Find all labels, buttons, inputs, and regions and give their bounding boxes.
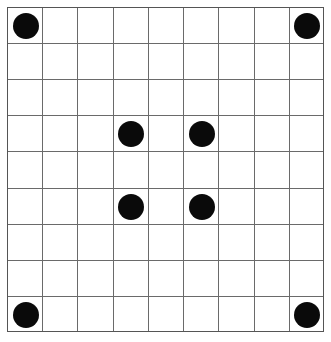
board-cell[interactable] xyxy=(43,8,78,44)
board-cell[interactable] xyxy=(290,116,325,152)
board-cell[interactable] xyxy=(184,8,219,44)
board-cell[interactable] xyxy=(219,80,254,116)
board-cell[interactable] xyxy=(8,80,43,116)
board-cell[interactable] xyxy=(43,116,78,152)
board-cell[interactable] xyxy=(8,116,43,152)
board-cell[interactable] xyxy=(255,189,290,225)
board-cell[interactable] xyxy=(184,225,219,261)
board-cell[interactable] xyxy=(78,152,113,188)
board-cell[interactable] xyxy=(78,44,113,80)
board-cell[interactable] xyxy=(114,8,149,44)
board-cell[interactable] xyxy=(78,116,113,152)
board-cell[interactable] xyxy=(184,152,219,188)
board-cell[interactable] xyxy=(114,44,149,80)
board-cell[interactable] xyxy=(219,116,254,152)
board-cell[interactable] xyxy=(219,297,254,333)
board-cell[interactable] xyxy=(114,297,149,333)
board-cell[interactable] xyxy=(149,44,184,80)
board-cell[interactable] xyxy=(184,80,219,116)
board-cell[interactable] xyxy=(43,189,78,225)
black-stone xyxy=(189,194,215,220)
board-cell[interactable] xyxy=(255,152,290,188)
black-stone xyxy=(13,13,39,39)
board-cell[interactable] xyxy=(184,297,219,333)
board-cell[interactable] xyxy=(149,297,184,333)
board-cell[interactable] xyxy=(219,152,254,188)
black-stone xyxy=(118,194,144,220)
board-cell[interactable] xyxy=(290,44,325,80)
black-stone xyxy=(189,121,215,147)
board-cell[interactable] xyxy=(149,116,184,152)
board-cell[interactable] xyxy=(114,225,149,261)
game-board xyxy=(7,7,324,332)
board-cell[interactable] xyxy=(78,8,113,44)
board-cell[interactable] xyxy=(8,152,43,188)
board-cell[interactable] xyxy=(78,297,113,333)
board-cell[interactable] xyxy=(149,225,184,261)
board-cell[interactable] xyxy=(8,225,43,261)
board-cell[interactable] xyxy=(114,152,149,188)
board-cell[interactable] xyxy=(43,297,78,333)
board-cell[interactable] xyxy=(8,261,43,297)
board-cell[interactable] xyxy=(219,225,254,261)
board-cell[interactable] xyxy=(78,225,113,261)
board-cell[interactable] xyxy=(149,80,184,116)
board-cell[interactable] xyxy=(149,261,184,297)
board-cell[interactable] xyxy=(43,44,78,80)
board-cell[interactable] xyxy=(255,261,290,297)
board-cell[interactable] xyxy=(290,261,325,297)
board-cell[interactable] xyxy=(114,80,149,116)
board-cell[interactable] xyxy=(43,261,78,297)
board-cell[interactable] xyxy=(43,152,78,188)
board-cell[interactable] xyxy=(255,80,290,116)
board-cell[interactable] xyxy=(255,44,290,80)
black-stone xyxy=(13,302,39,328)
board-cell[interactable] xyxy=(184,44,219,80)
board-cell[interactable] xyxy=(184,261,219,297)
board-cell[interactable] xyxy=(219,189,254,225)
board-cell[interactable] xyxy=(219,261,254,297)
board-cell[interactable] xyxy=(255,116,290,152)
board-cell[interactable] xyxy=(43,225,78,261)
board-cell[interactable] xyxy=(149,8,184,44)
board-cell[interactable] xyxy=(43,80,78,116)
board-cell[interactable] xyxy=(149,152,184,188)
board-cell[interactable] xyxy=(78,80,113,116)
board-cell[interactable] xyxy=(255,8,290,44)
board-cell[interactable] xyxy=(255,225,290,261)
board-cell[interactable] xyxy=(78,261,113,297)
board-cell[interactable] xyxy=(78,189,113,225)
board-cell[interactable] xyxy=(149,189,184,225)
board-cell[interactable] xyxy=(114,261,149,297)
board-cell[interactable] xyxy=(8,44,43,80)
board-cell[interactable] xyxy=(255,297,290,333)
board-cell[interactable] xyxy=(8,189,43,225)
board-cell[interactable] xyxy=(290,80,325,116)
board-cell[interactable] xyxy=(219,44,254,80)
board-cell[interactable] xyxy=(290,189,325,225)
board-cell[interactable] xyxy=(219,8,254,44)
board-cell[interactable] xyxy=(290,225,325,261)
board-cell[interactable] xyxy=(290,152,325,188)
